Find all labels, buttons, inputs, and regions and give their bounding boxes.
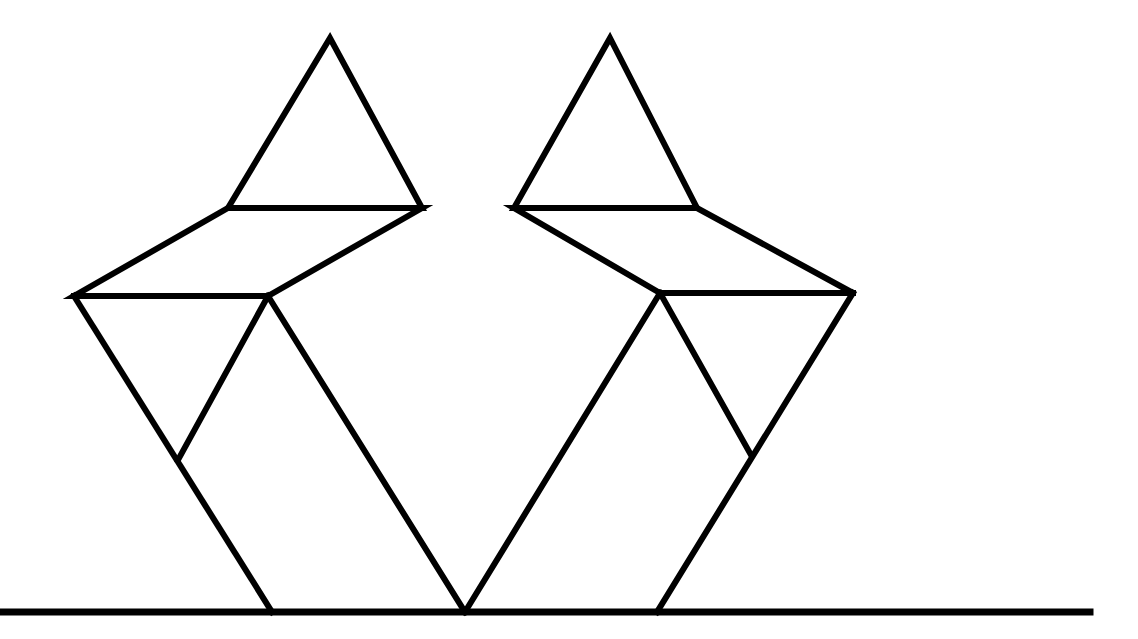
left-head-triangle <box>228 38 422 208</box>
tangram-diagram <box>0 0 1138 639</box>
right-inner-diagonal <box>660 293 751 455</box>
left-shoulder-parallelogram <box>74 208 422 296</box>
right-head-triangle <box>514 38 697 208</box>
left-inner-diagonal <box>178 296 268 460</box>
left-inner-edge <box>268 296 465 612</box>
right-inner-edge <box>465 293 660 612</box>
left-figure <box>74 38 465 612</box>
right-figure <box>465 38 853 612</box>
right-shoulder-parallelogram <box>514 208 853 293</box>
